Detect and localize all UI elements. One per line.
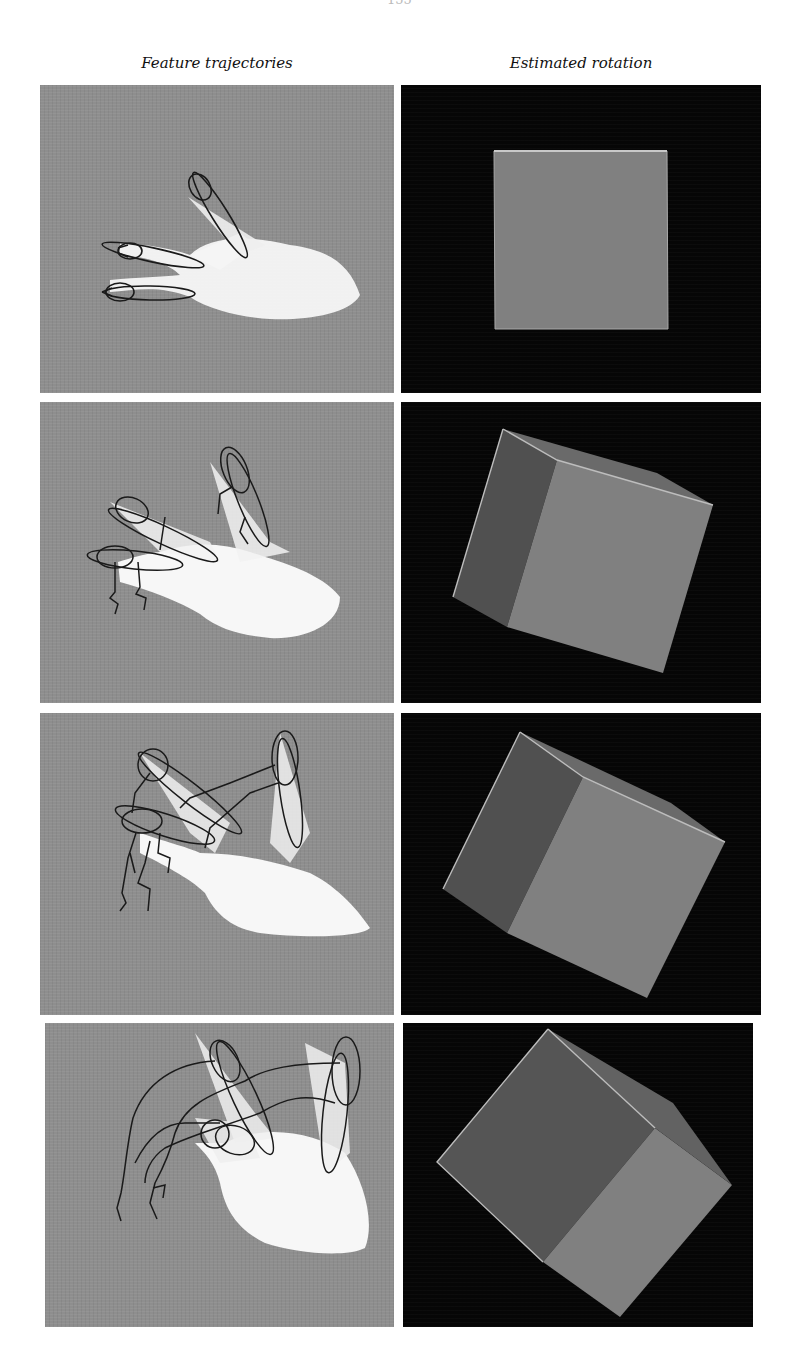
cube-figure-4 <box>403 1023 753 1327</box>
estimated-rotation-panel-2 <box>401 402 761 703</box>
feature-trajectories-panel-4 <box>45 1023 394 1327</box>
feature-trajectories-panel-3 <box>40 713 394 1015</box>
cube-figure-3 <box>401 713 761 1015</box>
hand-figure-1 <box>40 85 394 393</box>
page-number: 155 <box>0 0 799 7</box>
hand-figure-4 <box>45 1023 394 1327</box>
estimated-rotation-panel-3 <box>401 713 761 1015</box>
hand-figure-2 <box>40 402 394 703</box>
column-header-estimated-rotation: Estimated rotation <box>401 54 761 72</box>
estimated-rotation-panel-1 <box>401 85 761 393</box>
column-header-feature-trajectories: Feature trajectories <box>40 54 394 72</box>
estimated-rotation-panel-4 <box>403 1023 753 1327</box>
feature-trajectories-panel-2 <box>40 402 394 703</box>
cube-figure-1 <box>401 85 761 393</box>
hand-figure-3 <box>40 713 394 1015</box>
cube-figure-2 <box>401 402 761 703</box>
feature-trajectories-panel-1 <box>40 85 394 393</box>
